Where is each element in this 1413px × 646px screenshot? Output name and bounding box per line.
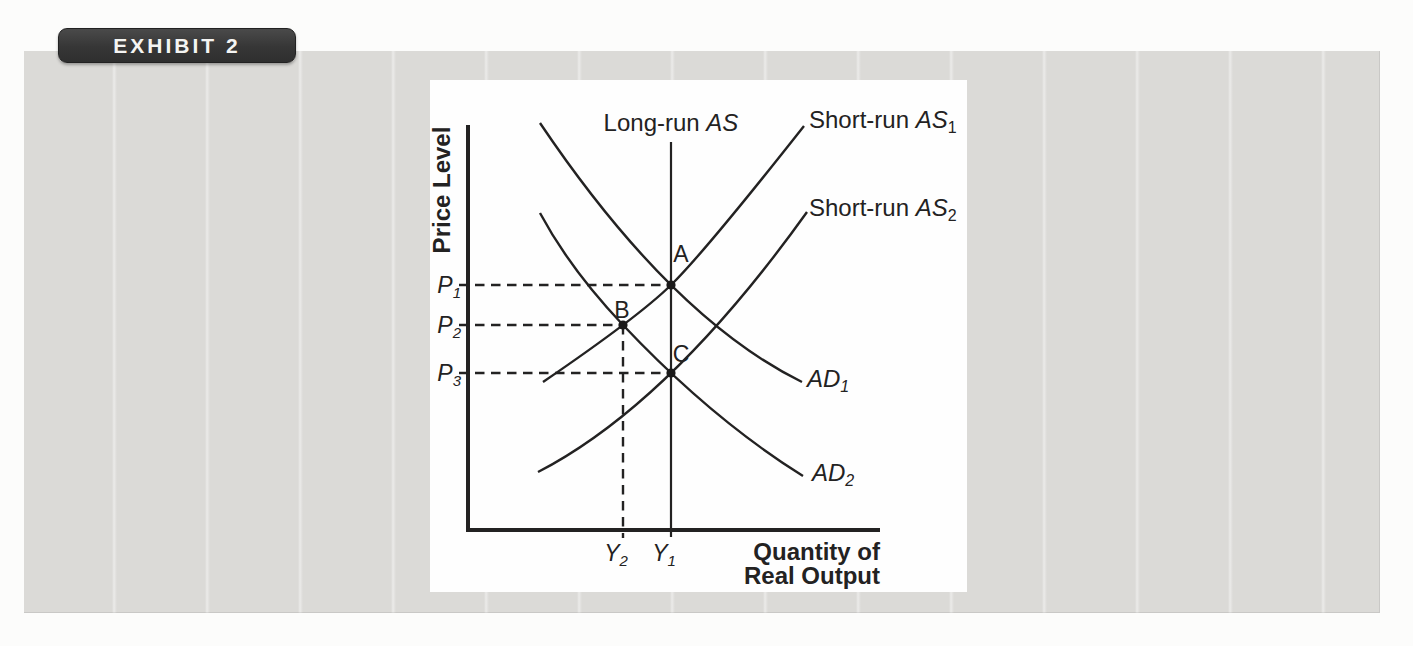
short-run-as2-label: Short-run AS2	[809, 194, 957, 224]
p3-tick-label: P3	[437, 360, 461, 389]
y1-tick-label: Y1	[652, 540, 676, 569]
ad1-label: AD1	[805, 365, 849, 395]
p2-tick-label: P2	[437, 312, 461, 341]
point-b-label: B	[614, 297, 629, 323]
y-axis-title: Price Level	[430, 127, 455, 254]
as-ad-diagram-svg: Long-run AS Short-run AS1 Short-run AS2 …	[430, 80, 967, 592]
exhibit-badge-label: EXHIBIT 2	[113, 34, 240, 58]
y2-tick-label: Y2	[604, 540, 628, 569]
exhibit-badge: EXHIBIT 2	[58, 28, 296, 63]
x-axis-title-line1: Quantity of	[753, 538, 881, 565]
exhibit-figure: EXHIBIT 2 Long-run AS	[0, 0, 1413, 646]
point-a-dot	[666, 280, 675, 289]
point-c-label: C	[673, 341, 690, 367]
p1-tick-label: P1	[437, 272, 461, 301]
x-axis-title-line2: Real Output	[744, 562, 880, 589]
short-run-as1-label: Short-run AS1	[809, 106, 957, 136]
point-c-dot	[666, 368, 675, 377]
point-a-label: A	[673, 241, 689, 267]
ad2-label: AD2	[810, 459, 854, 489]
as-ad-diagram: Long-run AS Short-run AS1 Short-run AS2 …	[430, 80, 967, 592]
long-run-as-label: Long-run AS	[604, 109, 739, 136]
